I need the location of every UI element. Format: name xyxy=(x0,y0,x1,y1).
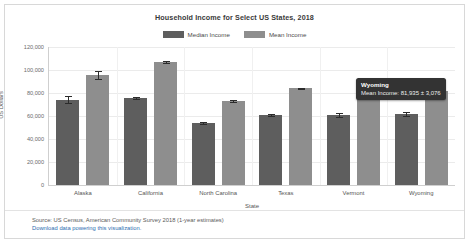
bar-median-wyoming[interactable] xyxy=(395,114,418,185)
x-axis-tick-label-vermont: Vermont xyxy=(343,190,365,196)
chart-tooltip: Wyoming Mean Income: 81,935 ± 3,076 xyxy=(356,78,446,100)
category-separator xyxy=(387,47,388,185)
error-bar-cap-lower xyxy=(133,99,140,100)
error-bar xyxy=(98,71,99,79)
x-axis-tick-label-california: California xyxy=(138,190,163,196)
error-bar-cap-upper xyxy=(95,71,102,72)
error-bar-cap-upper xyxy=(163,61,170,62)
category-separator xyxy=(252,47,253,185)
error-bar-cap-lower xyxy=(65,103,72,104)
error-bar-cap-lower xyxy=(336,117,343,118)
tooltip-title: Wyoming xyxy=(361,81,441,88)
x-axis-tick-label-wyoming: Wyoming xyxy=(409,190,434,196)
bar-mean-wyoming[interactable] xyxy=(425,91,448,185)
plot-area: AlaskaCaliforniaNorth CarolinaTexasVermo… xyxy=(49,47,455,185)
error-bar-cap-upper xyxy=(65,96,72,97)
x-axis-tick-label-north-carolina: North Carolina xyxy=(199,190,237,196)
error-bar-cap-lower xyxy=(268,116,275,117)
y-axis-tick-label: 0 xyxy=(41,182,44,188)
bar-median-north-carolina[interactable] xyxy=(192,123,215,185)
x-axis-tick-label-alaska: Alaska xyxy=(74,190,92,196)
bar-mean-vermont[interactable] xyxy=(357,93,380,185)
error-bar-cap-lower xyxy=(230,102,237,103)
error-bar-cap-lower xyxy=(95,79,102,80)
bar-median-california[interactable] xyxy=(124,98,147,185)
footer-source-text: Source: US Census, American Community Su… xyxy=(32,216,224,224)
y-axis-tick-label: 40,000 xyxy=(27,136,44,142)
error-bar-cap-upper xyxy=(133,97,140,98)
bar-mean-north-carolina[interactable] xyxy=(222,101,245,185)
bar-median-alaska[interactable] xyxy=(56,100,79,185)
error-bar-cap-lower xyxy=(163,63,170,64)
error-bar-cap-lower xyxy=(200,124,207,125)
category-separator xyxy=(117,47,118,185)
y-axis-tick-label: 20,000 xyxy=(27,159,44,165)
y-axis-tick-label: 80,000 xyxy=(27,90,44,96)
category-separator xyxy=(184,47,185,185)
footer-divider xyxy=(5,210,464,211)
footer: Source: US Census, American Community Su… xyxy=(32,216,224,232)
bar-mean-texas[interactable] xyxy=(289,88,312,185)
y-axis-title: US Dollars xyxy=(0,91,4,119)
tooltip-body: Mean Income: 81,935 ± 3,076 xyxy=(361,90,441,96)
y-axis-tick-label: 120,000 xyxy=(24,44,44,50)
download-data-link[interactable]: Download data powering this visualizatio… xyxy=(32,224,224,232)
y-axis-tick-label: 100,000 xyxy=(24,67,44,73)
plot-wrapper: 120,000100,00080,00060,00040,00020,0000 … xyxy=(5,5,464,238)
error-bar-cap-upper xyxy=(230,100,237,101)
gridline xyxy=(49,185,455,186)
y-axis-tick-label: 60,000 xyxy=(27,113,44,119)
bar-median-texas[interactable] xyxy=(259,115,282,185)
error-bar-cap-upper xyxy=(403,112,410,113)
visualization-frame: Household Income for Select US States, 2… xyxy=(4,4,465,239)
y-axis-tick-column: 120,000100,00080,00060,00040,00020,0000 xyxy=(5,47,44,185)
category-separator xyxy=(320,47,321,185)
bar-mean-alaska[interactable] xyxy=(86,75,109,185)
error-bar-cap-upper xyxy=(336,113,343,114)
error-bar-cap-lower xyxy=(403,116,410,117)
bar-median-vermont[interactable] xyxy=(327,115,350,185)
bar-mean-california[interactable] xyxy=(154,62,177,185)
error-bar-cap-lower xyxy=(298,89,305,90)
x-axis-title: State xyxy=(49,203,455,209)
x-axis-tick-label-texas: Texas xyxy=(278,190,293,196)
